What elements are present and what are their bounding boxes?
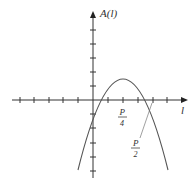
x-axis-arrow-icon [181,97,188,103]
y-axis-arrow-icon [90,11,96,18]
p4-numerator: P [119,107,126,117]
p4-denominator: 4 [120,119,124,128]
y-axis-label: A(l) [99,7,117,20]
x-axis-label: l [181,104,184,116]
chart: A(l) l P 4 P 2 [0,0,195,188]
chart-canvas: A(l) l P 4 P 2 [0,0,195,188]
tick-label-p2: P 2 [131,138,140,159]
tick-label-p4: P 4 [118,107,127,128]
p2-denominator: 2 [134,150,138,159]
p2-numerator: P [132,138,139,148]
p2-leader-line [140,103,152,138]
